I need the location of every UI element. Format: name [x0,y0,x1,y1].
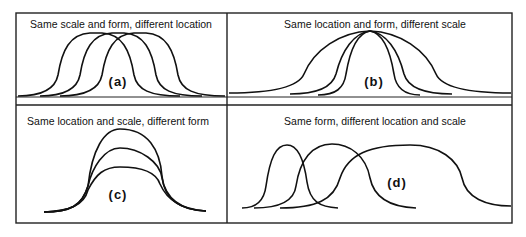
panel-c-tag: (c) [109,187,128,202]
panel-d-title: Same form, different location and scale [284,115,466,127]
panel-b-tag: (b) [364,74,384,89]
panel-c-title: Same location and scale, different form [27,115,209,127]
panel-c: Same location and scale, different form … [27,115,209,212]
curve-a3 [60,33,225,96]
curve-a1 [18,33,180,96]
panel-d-tag: (d) [387,175,407,190]
panel-d: Same form, different location and scale … [242,115,511,208]
panel-a-title: Same scale and form, different location [30,18,212,30]
panel-a: Same scale and form, different location … [18,18,225,96]
panel-a-tag: (a) [109,74,128,89]
panel-b-title: Same location and form, different scale [284,18,466,30]
panel-b: Same location and form, different scale … [229,18,511,95]
curve-c-mid [44,148,206,212]
distribution-comparison-diagram: Same scale and form, different location … [0,0,526,237]
